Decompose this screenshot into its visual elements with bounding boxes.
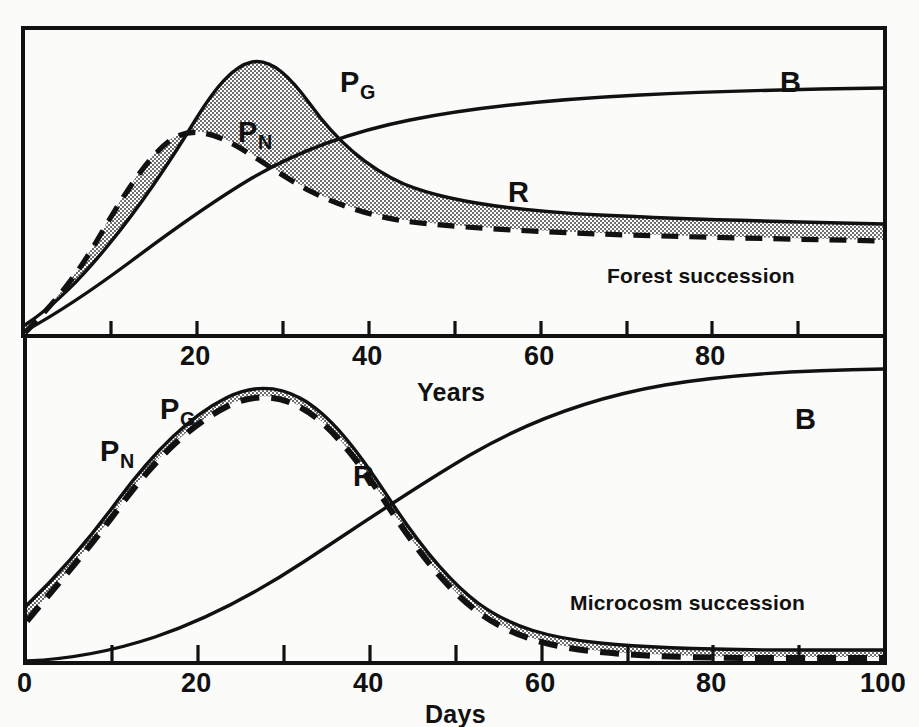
microcosm-pn-sub: N	[120, 450, 135, 472]
microcosm-tick-40: 40	[353, 670, 384, 697]
microcosm-pn-shaded-area	[27, 388, 884, 657]
forest-pn-shaded-area	[25, 61, 884, 332]
forest-b-label: B	[780, 68, 801, 97]
microcosm-tick-0: 0	[17, 670, 32, 697]
figure-svg	[0, 0, 919, 727]
forest-tick-20: 20	[180, 343, 211, 370]
microcosm-b-curve	[27, 369, 884, 661]
figure-canvas: PG PN R B Forest succession 20 40 60 80 …	[0, 0, 919, 727]
forest-r-label: R	[508, 178, 529, 207]
microcosm-pg-sub: G	[180, 408, 196, 430]
microcosm-pn-label: PN	[100, 437, 134, 466]
panel-forest	[23, 28, 885, 336]
microcosm-tick-80: 80	[696, 670, 727, 697]
forest-pn-sub: N	[258, 131, 273, 153]
forest-pn-base: P	[238, 116, 258, 148]
microcosm-tick-20: 20	[181, 670, 212, 697]
microcosm-tick-60: 60	[525, 670, 556, 697]
microcosm-x-axis-title: Days	[425, 702, 486, 727]
microcosm-b-label: B	[795, 405, 816, 434]
forest-tick-60: 60	[524, 343, 555, 370]
forest-pg-label: PG	[340, 68, 375, 97]
forest-x-ticks	[111, 321, 798, 336]
microcosm-pg-label: PG	[160, 395, 195, 424]
microcosm-tick-100: 100	[860, 670, 906, 697]
forest-tick-80: 80	[695, 343, 726, 370]
forest-tick-40: 40	[352, 343, 383, 370]
forest-pg-base: P	[340, 66, 360, 98]
forest-pn-label: PN	[238, 118, 272, 147]
microcosm-pg-base: P	[160, 393, 180, 425]
microcosm-r-label: R	[353, 462, 374, 491]
forest-caption: Forest succession	[607, 265, 795, 286]
microcosm-caption: Microcosm succession	[570, 592, 805, 613]
microcosm-r-curve	[27, 397, 884, 658]
forest-pg-sub: G	[360, 81, 376, 103]
microcosm-pn-base: P	[100, 435, 120, 467]
forest-x-axis-title: Years	[417, 380, 485, 405]
